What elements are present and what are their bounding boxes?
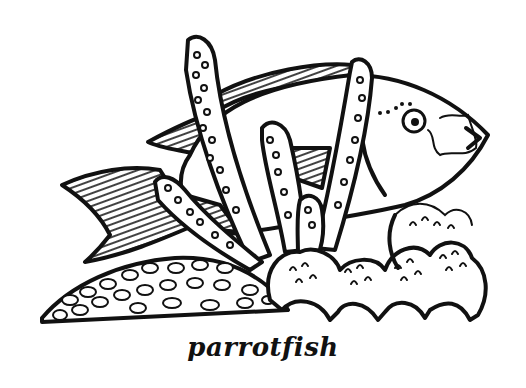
parrotfish-illustration (0, 0, 526, 388)
coral-clump-top (395, 204, 472, 225)
caption: parrotfish (0, 332, 526, 362)
eye-pupil (411, 118, 419, 126)
